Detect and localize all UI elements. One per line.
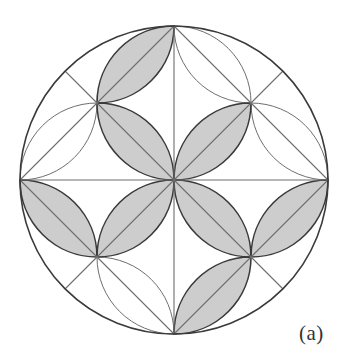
geometric-lens-diagram (0, 0, 354, 361)
outward-segment (251, 257, 283, 289)
figure-label: (a) (299, 321, 324, 346)
outward-segment (251, 71, 283, 103)
outward-segment (65, 257, 97, 289)
outward-segment (65, 71, 97, 103)
